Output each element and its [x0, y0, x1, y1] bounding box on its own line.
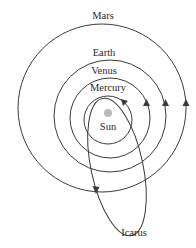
- icarus-direction-arrow-icon: [93, 186, 100, 194]
- icarus-orbit: Icarus: [77, 93, 157, 241]
- venus-direction-arrow-icon: [143, 99, 150, 106]
- sun-icon: [104, 109, 112, 117]
- mars-direction-arrow-icon: [183, 99, 190, 106]
- earth-direction-arrow-icon: [162, 99, 169, 106]
- mars-label: Mars: [92, 10, 114, 21]
- icarus-label: Icarus: [121, 227, 147, 238]
- sun: Sun: [100, 109, 117, 132]
- sun-label: Sun: [100, 121, 117, 132]
- orbit-diagram: Mars Earth Venus Mercury Sun Icarus: [0, 0, 196, 248]
- earth-label: Earth: [93, 47, 116, 58]
- mercury-label: Mercury: [90, 82, 127, 93]
- venus-label: Venus: [91, 65, 117, 76]
